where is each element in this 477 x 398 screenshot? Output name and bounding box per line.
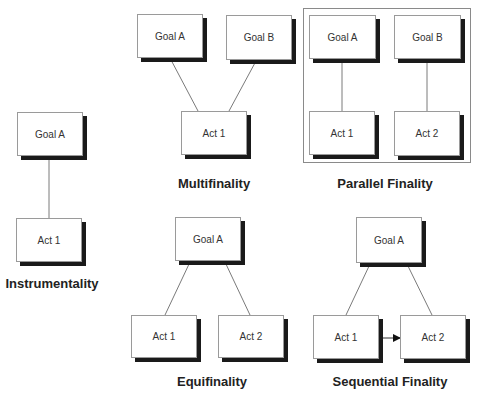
node-label: Goal A [374,235,404,246]
node-label: Act 1 [335,332,358,343]
node-label: Act 1 [203,128,226,139]
node-label: Act 1 [153,331,176,342]
node-label: Goal A [155,31,185,42]
sequential-act-2-node: Act 2 [400,315,466,359]
node-label: Goal B [412,32,443,43]
equifinality-goal-a-node: Goal A [175,217,241,261]
parallel-goal-b-node: Goal B [394,15,461,59]
equifinality-title: Equifinality [177,374,247,389]
node-label: Act 2 [416,128,439,139]
instrumentality-goal-a-node: Goal A [17,112,83,156]
parallel-goal-a-node: Goal A [309,15,376,59]
instrumentality-title: Instrumentality [5,276,98,291]
node-label: Act 1 [38,235,61,246]
sequential-finality-title: Sequential Finality [333,374,448,389]
parallel-finality-title: Parallel Finality [337,176,432,191]
multifinality-act-1-node: Act 1 [181,111,247,155]
node-label: Act 2 [240,331,263,342]
node-label: Goal A [35,129,65,140]
multifinality-title: Multifinality [178,176,250,191]
instrumentality-act-1-node: Act 1 [16,218,82,262]
node-label: Goal B [244,32,275,43]
equifinality-act-1-node: Act 1 [131,315,197,358]
multifinality-goal-b-node: Goal B [226,15,292,60]
node-label: Goal A [327,32,357,43]
sequential-act-1-node: Act 1 [313,315,379,359]
sequential-goal-a-node: Goal A [356,217,422,263]
node-label: Act 2 [422,332,445,343]
equifinality-act-2-node: Act 2 [218,315,284,358]
parallel-act-2-node: Act 2 [394,111,460,156]
parallel-act-1-node: Act 1 [309,111,375,155]
multifinality-goal-a-node: Goal A [137,14,203,58]
node-label: Act 1 [331,128,354,139]
node-label: Goal A [193,234,223,245]
